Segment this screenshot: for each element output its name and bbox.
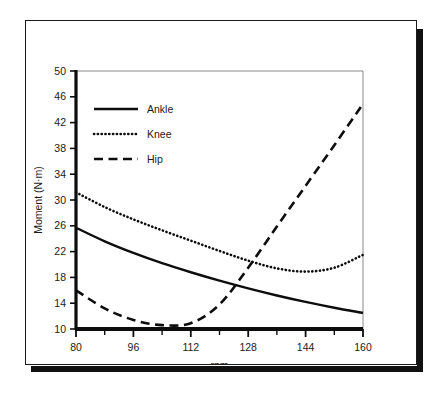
y-tick-label-14: 14 <box>54 297 66 309</box>
y-tick-label-34: 34 <box>54 168 66 180</box>
y-tick-label-26: 26 <box>54 219 66 231</box>
panel-drop-shadow-right <box>417 29 423 372</box>
legend-label-knee: Knee <box>147 128 172 140</box>
x-tick-label-128: 128 <box>239 341 257 353</box>
y-tick-label-46: 46 <box>54 90 66 102</box>
series-line-knee <box>76 192 363 271</box>
y-tick-label-22: 22 <box>54 245 66 257</box>
y-tick-label-30: 30 <box>54 194 66 206</box>
x-tick-label-144: 144 <box>297 341 315 353</box>
line-chart: 10141822263034384246508096112128144160rp… <box>26 21 416 364</box>
y-tick-label-10: 10 <box>54 323 66 335</box>
y-axis-title: Moment (N·m) <box>32 166 44 234</box>
panel-drop-shadow-bottom <box>31 366 423 372</box>
x-tick-label-80: 80 <box>70 341 82 353</box>
y-tick-label-50: 50 <box>54 65 66 77</box>
x-axis-title: rpm <box>210 359 228 364</box>
x-tick-label-160: 160 <box>354 341 372 353</box>
legend-label-hip: Hip <box>147 153 163 165</box>
y-tick-label-42: 42 <box>54 116 66 128</box>
x-tick-label-96: 96 <box>128 341 140 353</box>
legend-label-ankle: Ankle <box>147 103 173 115</box>
y-tick-label-38: 38 <box>54 142 66 154</box>
figure-panel: 10141822263034384246508096112128144160rp… <box>25 20 417 365</box>
series-line-hip <box>76 104 363 326</box>
y-tick-label-18: 18 <box>54 271 66 283</box>
x-tick-label-112: 112 <box>182 341 199 353</box>
figure-root: 10141822263034384246508096112128144160rp… <box>0 0 447 401</box>
